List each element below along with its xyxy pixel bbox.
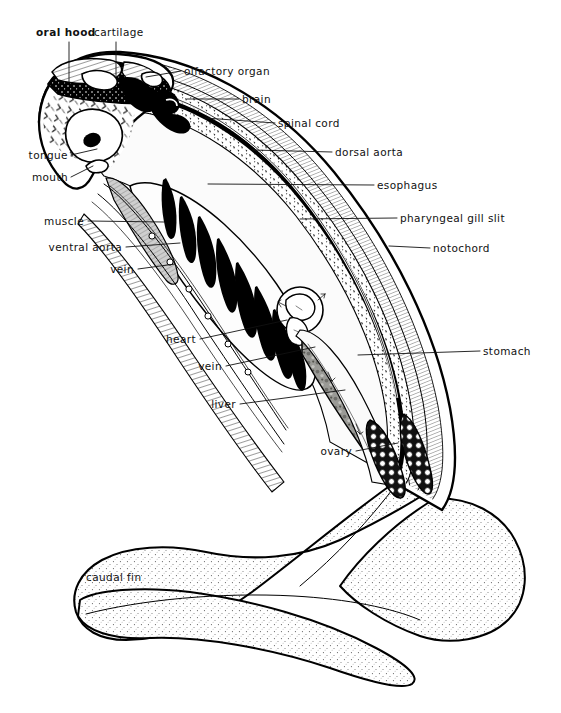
label-vein-lower: vein	[198, 360, 222, 372]
label-heart: heart	[166, 333, 196, 345]
label-dorsal-aorta: dorsal aorta	[335, 146, 403, 158]
label-olfactory-organ: olfactory organ	[184, 65, 270, 77]
amphioxus-diagram: oral hoodcartilageolfactory organbrainsp…	[0, 0, 561, 713]
label-tongue: tongue	[29, 149, 68, 161]
vessel-nodule	[225, 341, 231, 347]
label-stomach: stomach	[483, 345, 531, 357]
label-muscle: muscle	[44, 215, 84, 227]
label-vein-upper: vein	[110, 263, 134, 275]
vessel-nodule	[149, 233, 155, 239]
vessel-nodule	[205, 313, 211, 319]
label-spinal-cord: spinal cord	[278, 117, 340, 129]
label-cartilage: cartilage	[94, 26, 144, 38]
label-ovary: ovary	[320, 445, 352, 457]
label-oral-hood: oral hood	[36, 26, 96, 38]
label-mouth: mouth	[32, 171, 68, 183]
label-pharyngeal-gill-slit: pharyngeal gill slit	[400, 212, 505, 224]
label-brain: brain	[242, 93, 271, 105]
label-ventral-aorta: ventral aorta	[49, 241, 122, 253]
label-esophagus: esophagus	[377, 179, 438, 191]
anatomy-figure: oral hoodcartilageolfactory organbrainsp…	[0, 0, 561, 713]
vessel-nodule	[186, 286, 192, 292]
label-liver: liver	[211, 398, 236, 410]
label-caudal-fin: caudal fin	[86, 571, 142, 583]
vessel-nodule	[245, 369, 251, 375]
label-notochord: notochord	[433, 242, 490, 254]
